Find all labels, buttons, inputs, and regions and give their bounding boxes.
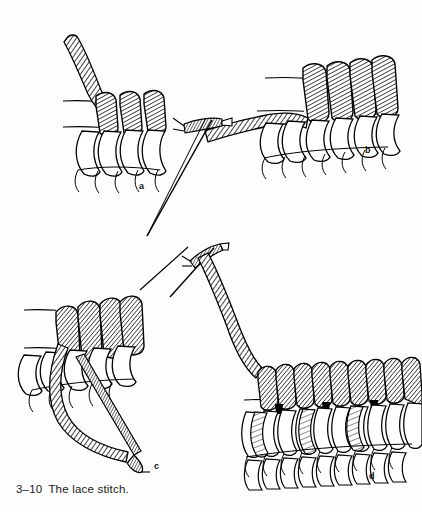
lace-stitch-illustration (0, 0, 422, 512)
panel-label-c: c (154, 462, 159, 471)
panel-d-top-coils (258, 357, 422, 410)
figure-caption-text: The lace stitch. (48, 483, 129, 495)
figure-caption: 3–10The lace stitch. (16, 483, 129, 495)
panel-b-coils (303, 56, 398, 123)
panel-label-d: d (369, 472, 375, 481)
panel-label-a: a (139, 182, 144, 191)
figure-caption-number: 3–10 (16, 483, 42, 495)
figure-container: a b c d 3–10The lace stitch. (0, 0, 422, 512)
panel-label-b: b (365, 146, 371, 155)
panel-a-coils (96, 91, 166, 137)
